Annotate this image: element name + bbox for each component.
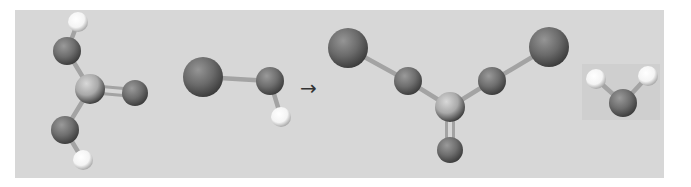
oxygen-atom [256,67,284,95]
reaction-arrow-icon: → [300,76,317,100]
large-atom [183,57,223,97]
oxygen-atom [122,80,148,106]
carbon-atom [435,92,465,122]
hydrogen-atom [271,107,291,127]
reaction-diagram: → [0,0,691,187]
hydrogen-atom [638,66,658,86]
oxygen-atom [51,116,79,144]
oxygen-atom [609,89,637,117]
carbon-atom [75,74,105,104]
large-atom [328,28,368,68]
oxygen-atom [437,137,463,163]
oxygen-atom [53,37,81,65]
hydrogen-atom [73,150,93,170]
large-atom [529,27,569,67]
hydrogen-atom [586,69,606,89]
hydrogen-atom [68,12,88,32]
oxygen-atom [478,67,506,95]
oxygen-atom [394,67,422,95]
